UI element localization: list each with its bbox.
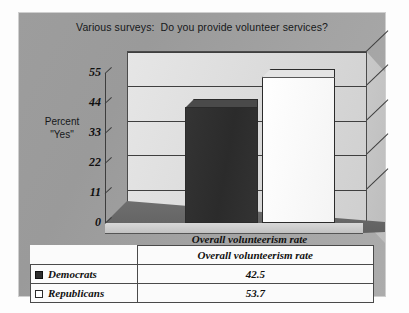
bar-democrats[interactable] xyxy=(185,107,258,223)
legend-header-row: Overall volunteerism rate xyxy=(31,246,374,265)
bar-front-face xyxy=(262,77,335,223)
category-label: Overall volunteerism rate xyxy=(127,233,372,245)
chart-page: Various surveys: Do you provide voluntee… xyxy=(0,0,409,313)
legend-swatch-icon xyxy=(35,290,43,298)
legend-data-table: Overall volunteerism rateDemocrats42.5Re… xyxy=(30,245,374,303)
y-axis-line xyxy=(105,73,106,223)
y-axis-title: Percent "Yes" xyxy=(25,115,99,141)
chart-title: Various surveys: Do you provide voluntee… xyxy=(19,21,385,33)
y-tick-label: 44 xyxy=(89,95,101,110)
chart-canvas: Various surveys: Do you provide voluntee… xyxy=(19,13,385,296)
legend-header-blank xyxy=(31,246,138,265)
bar-front-face xyxy=(185,107,258,223)
legend-series-label: Democrats xyxy=(48,268,97,280)
bar-top-face xyxy=(185,99,258,108)
y-tick-label: 55 xyxy=(89,65,101,80)
legend-series-cell: Republicans xyxy=(31,284,138,303)
y-tick-label: 33 xyxy=(89,125,101,140)
y-tick-label: 22 xyxy=(89,155,101,170)
y-tick-mark xyxy=(105,67,112,74)
y-tick-label: 0 xyxy=(95,215,101,230)
bar-republicans[interactable] xyxy=(262,77,335,223)
legend-header-category: Overall volunteerism rate xyxy=(137,246,374,265)
legend-swatch-icon xyxy=(35,271,43,279)
legend-row[interactable]: Democrats42.5 xyxy=(31,265,374,284)
plot-side-wall xyxy=(366,51,385,243)
legend-series-value: 42.5 xyxy=(137,265,374,284)
legend-series-value: 53.7 xyxy=(137,284,374,303)
legend-series-cell: Democrats xyxy=(31,265,138,284)
bar-top-face xyxy=(262,69,335,78)
y-axis-title-line2: "Yes" xyxy=(25,128,99,141)
y-tick-label: 11 xyxy=(90,185,101,200)
legend-row[interactable]: Republicans53.7 xyxy=(31,284,374,303)
gridline xyxy=(128,52,366,53)
legend-series-label: Republicans xyxy=(48,287,104,299)
y-axis-title-line1: Percent xyxy=(25,115,99,128)
plot-area: 01122334455 Overall volunteerism rate xyxy=(105,51,385,243)
